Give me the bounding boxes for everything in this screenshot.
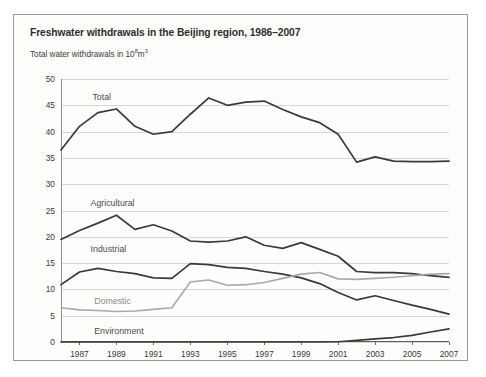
subtitle-prefix: Total water withdrawals in 10	[30, 50, 135, 59]
series-label-environment: Environment	[94, 326, 143, 336]
x-axis-tick-mark	[449, 342, 450, 345]
x-axis-tick-label: 1991	[144, 349, 163, 359]
subtitle-exponent-3: 3	[145, 48, 148, 54]
x-axis-tick-label: 2007	[440, 349, 459, 359]
y-axis-tick-label: 35	[46, 153, 55, 163]
y-axis-tick-label: 10	[46, 284, 55, 294]
x-axis-tick-label: 1993	[181, 349, 200, 359]
series-line-industrial	[61, 264, 449, 314]
series-label-industrial: Industrial	[91, 244, 127, 254]
y-axis-tick-label: 30	[46, 179, 55, 189]
y-axis-tick-label: 15	[46, 258, 55, 268]
x-axis-tick-label: 1997	[255, 349, 274, 359]
chart-figure: Freshwater withdrawals in the Beijing re…	[13, 14, 468, 361]
y-axis-tick-label: 0	[50, 337, 55, 347]
y-axis-tick-label: 40	[46, 127, 55, 137]
y-axis-tick-label: 45	[46, 100, 55, 110]
x-axis-tick-label: 2003	[366, 349, 385, 359]
y-axis-tick-label: 50	[46, 74, 55, 84]
chart-title: Freshwater withdrawals in the Beijing re…	[30, 27, 300, 38]
x-axis-tick-label: 1989	[107, 349, 126, 359]
series-label-domestic: Domestic	[94, 296, 131, 306]
x-axis-tick-label: 1999	[292, 349, 311, 359]
series-label-total: Total	[92, 92, 111, 102]
y-axis-tick-label: 25	[46, 206, 55, 216]
y-axis-tick-label: 5	[50, 311, 55, 321]
y-axis-tick-label: 20	[46, 232, 55, 242]
plot-area: 05101520253035404550 1987198919911993199…	[61, 79, 449, 342]
x-axis-tick-label: 2001	[329, 349, 348, 359]
x-axis-tick-label: 1995	[218, 349, 237, 359]
x-axis-tick-label: 2005	[403, 349, 422, 359]
x-axis-tick-mark	[375, 342, 376, 345]
series-label-agricultural: Agricultural	[91, 198, 135, 208]
chart-subtitle: Total water withdrawals in 108m3	[30, 50, 148, 59]
series-line-total	[61, 98, 449, 162]
subtitle-unit-m: m	[138, 50, 145, 59]
x-axis-tick-mark	[412, 342, 413, 345]
x-axis-tick-label: 1987	[70, 349, 89, 359]
